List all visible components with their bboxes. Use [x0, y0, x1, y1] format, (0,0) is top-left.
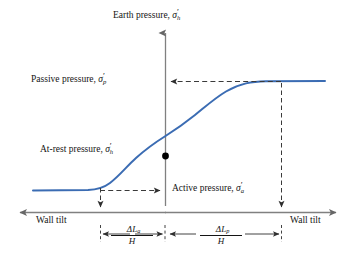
at-rest-pressure-label: At-rest pressure, σ′h: [40, 145, 110, 155]
subscript-glyph: h: [177, 14, 180, 21]
passive-L-symbol: Lp: [221, 224, 226, 234]
passive-strain-fraction: ΔLp H: [200, 224, 242, 246]
subscript-glyph: p: [226, 227, 229, 234]
at-rest-marker-group: [162, 153, 169, 160]
y-axis-title: Earth pressure, σ′h: [113, 11, 177, 21]
at-rest-sigma-symbol: σ′h: [105, 145, 110, 155]
active-L-symbol: La: [132, 224, 137, 234]
active-pressure-label: Active pressure, σ′a: [172, 184, 241, 194]
y-axis-title-text: Earth pressure,: [113, 10, 172, 20]
passive-pressure-text: Passive pressure,: [31, 74, 98, 84]
passive-strain-denominator: H: [200, 236, 242, 246]
passive-sigma-symbol: σ′p: [98, 75, 103, 85]
active-strain-fraction: ΔLa H: [111, 224, 153, 246]
wall-tilt-label-left: Wall tilt: [36, 216, 67, 226]
active-strain-denominator: H: [111, 236, 153, 246]
at-rest-pressure-dot: [162, 153, 169, 160]
subscript-glyph: p: [103, 78, 106, 85]
wall-tilt-label-right: Wall tilt: [290, 216, 321, 226]
at-rest-pressure-text: At-rest pressure,: [40, 144, 105, 154]
earth-pressure-wall-tilt-figure: Earth pressure, σ′h Passive pressure, σ′…: [0, 0, 354, 256]
passive-pressure-label: Passive pressure, σ′p: [31, 75, 103, 85]
active-sigma-symbol: σ′a: [236, 184, 241, 194]
subscript-glyph: a: [241, 187, 244, 194]
y-axis-sigma-symbol: σ′h: [172, 11, 177, 21]
active-strain-numerator: ΔLa: [111, 224, 153, 234]
passive-strain-numerator: ΔLp: [200, 224, 242, 234]
subscript-glyph: h: [110, 148, 113, 155]
subscript-glyph: a: [137, 227, 140, 234]
active-pressure-text: Active pressure,: [172, 183, 236, 193]
